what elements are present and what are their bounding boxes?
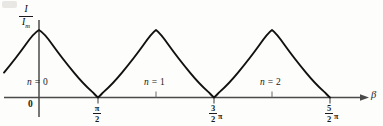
x-tick-label-3pi-over-2-suffix: π bbox=[218, 112, 222, 121]
annotation-order-one: n = 1 bbox=[144, 78, 165, 88]
annotation-order-two-value: 2 bbox=[276, 77, 281, 87]
annotation-order-one-equals: = bbox=[152, 77, 158, 87]
x-tick-label-3pi-over-2: 3 2 bbox=[209, 104, 217, 123]
annotation-order-two-equals: = bbox=[268, 77, 274, 87]
annotation-order-zero-value: 0 bbox=[43, 77, 48, 87]
x-tick-label-5pi-over-2-suffix: π bbox=[334, 112, 338, 121]
x-tick-label-5pi-over-2-numerator: 5 bbox=[326, 104, 332, 113]
annotation-order-zero: n = 0 bbox=[27, 78, 48, 88]
x-tick-label-3pi-over-2-numerator: 3 bbox=[210, 104, 216, 113]
x-tick-label-3pi-over-2-denominator: 2 bbox=[210, 114, 216, 123]
annotation-order-zero-equals: = bbox=[35, 77, 41, 87]
x-axis-label: β bbox=[371, 90, 376, 101]
y-axis-label-denominator-subscript: m bbox=[25, 21, 30, 28]
interference-intensity-figure: I Im 0 n = 0 n = 1 n = 2 π 2 3 2 π 5 2 π… bbox=[0, 0, 383, 126]
y-axis-label: I Im bbox=[19, 5, 33, 29]
y-axis-label-denominator: Im bbox=[22, 17, 30, 29]
x-tick-label-pi-over-2-numerator: π bbox=[94, 104, 101, 113]
x-axis-arrow-icon bbox=[360, 94, 369, 100]
annotation-order-two: n = 2 bbox=[260, 78, 281, 88]
origin-tick-label: 0 bbox=[28, 100, 33, 110]
x-tick-label-5pi-over-2: 5 2 bbox=[325, 104, 333, 123]
x-tick-label-pi-over-2-denominator: 2 bbox=[94, 114, 100, 123]
x-tick-label-pi-over-2: π 2 bbox=[93, 104, 101, 123]
scan-artifact-smudge bbox=[2, 1, 17, 8]
x-tick-label-5pi-over-2-denominator: 2 bbox=[326, 114, 332, 123]
y-axis-label-numerator: I bbox=[24, 5, 27, 16]
annotation-order-one-value: 1 bbox=[160, 77, 165, 87]
